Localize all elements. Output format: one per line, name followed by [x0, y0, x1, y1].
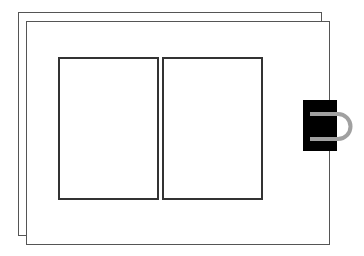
- binder-clip-icon: [0, 0, 364, 256]
- binder-clip-body: [303, 100, 337, 151]
